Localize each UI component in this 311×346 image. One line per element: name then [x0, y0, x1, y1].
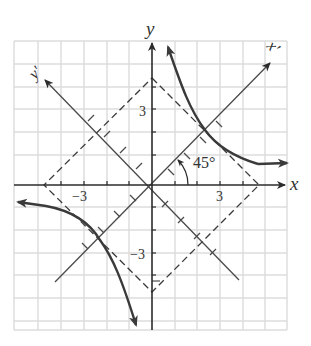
angle-label: 45°: [193, 154, 215, 172]
x-axis-label: x: [290, 173, 298, 195]
tick-label-y-pos-3: 3: [139, 104, 146, 120]
hyperbola-lower-branch: [46, 206, 136, 325]
y-axis-label: y: [146, 18, 154, 40]
hyperbola-upper-branch-tail: [258, 163, 287, 164]
tick-label-x-pos-3: 3: [216, 189, 223, 205]
angle-arc: [178, 160, 188, 185]
rotated-axes-figure: [0, 0, 311, 346]
tick-label-x-neg-3: −3: [72, 189, 87, 205]
x-prime-axis: [55, 63, 270, 282]
tick-label-y-neg-3: −3: [130, 247, 145, 263]
hyperbola-lower-branch-tail: [18, 202, 46, 206]
